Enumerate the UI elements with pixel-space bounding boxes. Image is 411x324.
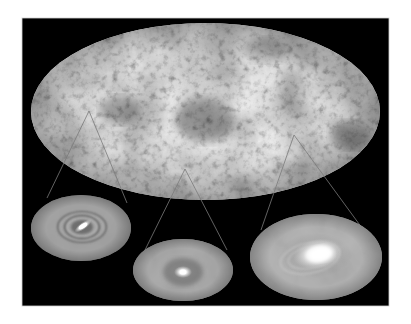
inset-2 — [133, 239, 233, 301]
inset-1 — [31, 195, 131, 261]
sky-map-figure — [0, 0, 411, 324]
inset-3 — [250, 214, 382, 300]
